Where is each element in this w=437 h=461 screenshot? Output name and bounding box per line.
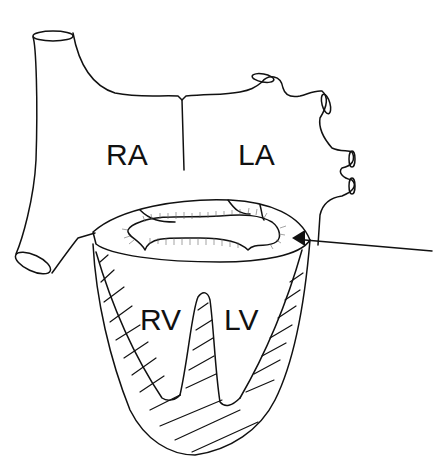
ivc-opening (12, 248, 53, 279)
heart-diagram: RA LA RV LV (0, 0, 437, 461)
label-left-ventricle: LV (224, 305, 258, 335)
pointer-line (305, 240, 432, 251)
heart-drawing (0, 0, 437, 461)
label-left-atrium: LA (238, 140, 275, 170)
annulus-outer (93, 200, 310, 262)
svc-opening (33, 31, 73, 41)
valve-orifice (128, 215, 280, 250)
arrowhead-icon (292, 230, 305, 246)
label-right-ventricle: RV (140, 305, 181, 335)
label-right-atrium: RA (106, 140, 148, 170)
